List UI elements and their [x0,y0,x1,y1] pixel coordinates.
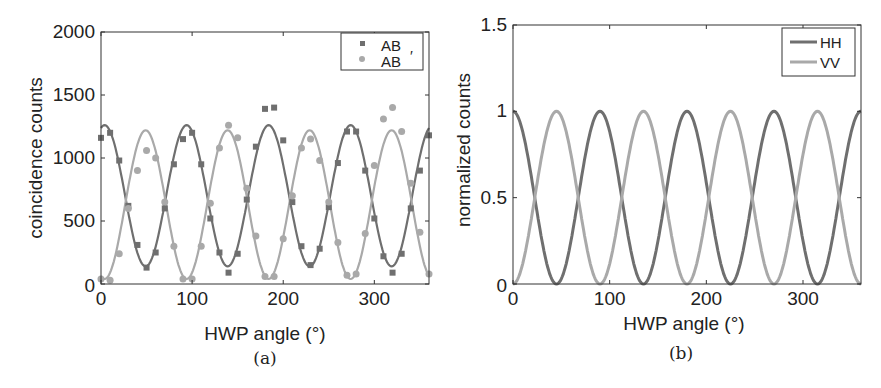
data-point-square [198,161,204,167]
data-point-circle [125,205,132,212]
data-point-square [317,246,323,252]
legend-label-ab: AB [381,37,401,54]
x-tick-label: 100 [594,288,626,309]
data-point-square [298,243,304,249]
series-curve-hh [513,111,861,284]
data-point-circle [416,229,423,236]
data-point-circle [252,233,259,240]
x-tick-label: 200 [267,288,299,309]
data-point-square [253,144,259,150]
data-point-circle [107,277,114,284]
data-point-square [144,265,150,271]
data-point-square [390,270,396,276]
data-point-square [134,242,140,248]
data-point-square [107,130,113,136]
data-point-circle [344,272,351,279]
data-point-square [235,251,241,257]
data-point-circle [271,273,278,280]
data-point-square [226,270,232,276]
data-point-circle [353,270,360,277]
y-tick-label: 500 [63,210,95,231]
y-tick-label: 0 [84,275,95,296]
data-point-square [162,205,168,211]
x-tick-label: 0 [508,288,519,309]
data-point-square [180,136,186,142]
legend: HH VV [782,28,855,76]
data-point-circle [389,104,396,111]
data-point-square [216,250,222,256]
data-point-circle [371,162,378,169]
legend-label-ab-prime: AB [381,53,401,70]
data-point-square [262,106,268,112]
x-axis-label: HWP angle (°) [623,313,744,334]
data-point-circle [225,122,232,129]
data-point-square [171,161,177,167]
data-point-circle [180,275,187,282]
data-point-square [116,158,122,164]
data-point-square [308,262,314,268]
data-point-circle [380,115,387,122]
data-point-circle [289,192,296,199]
data-point-circle [243,185,250,192]
x-tick-label: 300 [787,288,819,309]
y-tick-label: 1 [496,100,507,121]
data-point-circle [307,136,314,143]
data-point-circle [116,250,123,257]
legend: AB AB ′ [341,33,423,70]
data-point-square [353,129,359,135]
figure: 01002003000500100015002000 HWP angle (°)… [0,0,881,388]
data-point-square [244,197,250,203]
y-axis-label: coincidence counts [25,77,46,239]
data-point-circle [262,273,269,280]
data-point-square [380,253,386,259]
panel-a-coincidence-counts: 01002003000500100015002000 HWP angle (°)… [25,21,433,368]
legend-prime-mark: ′ [410,47,413,64]
y-axis-label: normalized counts [453,73,474,227]
data-point-circle [152,155,159,162]
y-tick-label: 0.5 [481,187,507,208]
data-point-circle [316,157,323,164]
data-point-square [362,168,368,174]
data-point-circle [170,243,177,250]
legend-label-vv: VV [820,54,840,71]
panel-caption: (a) [253,348,276,368]
data-point-circle [362,230,369,237]
data-point-square [417,168,423,174]
fit-curve [101,130,429,279]
data-point-square [371,215,377,221]
y-tick-label: 0 [496,275,507,296]
data-point-square [399,251,405,257]
panel-caption: (b) [669,343,693,363]
data-point-square [153,250,159,256]
y-tick-label: 1500 [53,84,95,105]
fit-curves [101,125,429,279]
data-point-square [207,215,213,221]
data-point-square [335,160,341,166]
data-point-circle [334,239,341,246]
circle-marker-icon [359,56,365,62]
data-point-circle [143,147,150,154]
data-point-circle [207,200,214,207]
legend-label-hh: HH [820,34,842,51]
data-point-circle [161,199,168,206]
data-point-circle [216,144,223,151]
x-tick-label: 300 [358,288,390,309]
data-point-square [344,129,350,135]
data-point-circle [280,235,287,242]
data-point-circle [298,144,305,151]
series-curve-vv [513,111,861,284]
x-tick-label: 100 [176,288,208,309]
legend-box [782,28,855,76]
panel-b-normalized-counts: 010020030000.511.5 HWP angle (°) normali… [453,14,861,363]
data-point-circle [407,180,414,187]
x-tick-label: 200 [690,288,722,309]
curves [513,111,861,284]
data-point-circle [198,243,205,250]
square-marker-icon [360,41,365,46]
data-point-circle [398,128,405,135]
y-tick-label: 2000 [53,21,95,42]
data-point-square [189,130,195,136]
fit-curve [101,125,429,266]
x-axis-label: HWP angle (°) [204,323,325,344]
data-point-square [289,199,295,205]
